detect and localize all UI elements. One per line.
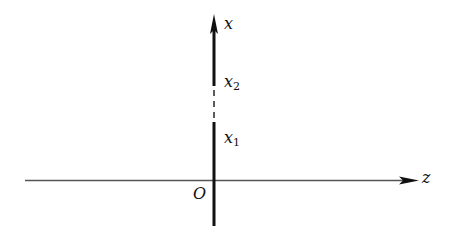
point-label-x2: x2 bbox=[224, 74, 240, 92]
coordinate-diagram bbox=[0, 0, 456, 232]
point-label-x1: x1 bbox=[224, 130, 240, 148]
x2-base: x bbox=[224, 72, 233, 91]
x1-subscript: 1 bbox=[233, 136, 240, 149]
x-axis-label: x bbox=[224, 16, 233, 32]
z-axis-label: z bbox=[422, 170, 430, 186]
x2-subscript: 2 bbox=[233, 80, 240, 93]
origin-label: O bbox=[193, 186, 206, 202]
x1-base: x bbox=[224, 128, 233, 147]
